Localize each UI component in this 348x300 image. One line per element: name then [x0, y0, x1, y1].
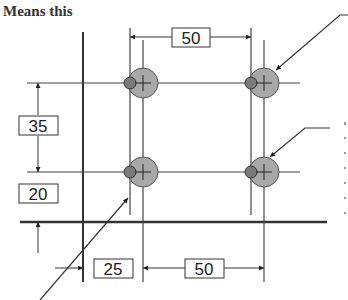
dim-top-50: 50: [130, 28, 251, 48]
dim-left-35: 35: [19, 83, 58, 172]
hole-centerlines: [27, 28, 300, 282]
dim-left-20: 20: [19, 184, 58, 253]
dim-label-25: 25: [104, 260, 123, 279]
drawing-canvas: 50 35 20 25 50: [0, 0, 348, 300]
hole-bottom-right: [245, 157, 279, 187]
hole-top-right: [245, 68, 279, 98]
dim-bottom-50: 50: [143, 259, 264, 279]
dim-label-20: 20: [29, 185, 48, 204]
hole-top-left: [124, 68, 158, 98]
cutoff-text-fragments: [344, 122, 346, 214]
hole-bottom-left: [124, 157, 158, 187]
leader-lines: [40, 15, 348, 300]
dim-label-top-50: 50: [182, 29, 201, 48]
dim-label-bottom-50: 50: [195, 260, 214, 279]
dim-label-35: 35: [29, 117, 48, 136]
datum-lines: [20, 32, 327, 282]
